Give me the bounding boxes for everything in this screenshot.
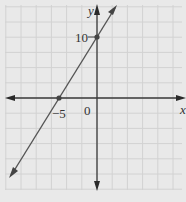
origin-label: 0 [84,104,91,117]
y-axis-label: y [88,4,94,17]
x-intercept-point [56,95,61,100]
coordinate-plane [0,0,186,202]
y-intercept-point [94,34,99,39]
y-intercept-label: 10 [75,31,88,44]
x-intercept-label: −5 [52,107,66,120]
x-axis-label: x [180,103,186,116]
